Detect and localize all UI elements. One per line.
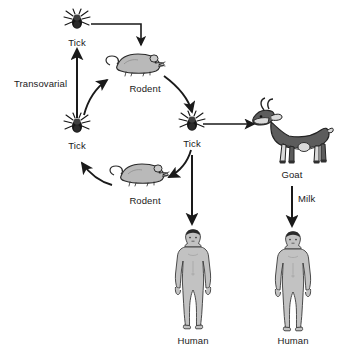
label-rodent-top: Rodent bbox=[129, 84, 160, 94]
tick-icon bbox=[62, 8, 92, 34]
rodent-icon bbox=[104, 50, 166, 80]
label-transovarial: Transovarial bbox=[14, 79, 67, 89]
label-human-left: Human bbox=[177, 336, 208, 346]
tick-icon bbox=[177, 110, 207, 136]
rodent-icon bbox=[108, 160, 170, 190]
label-tick-top: Tick bbox=[68, 38, 85, 48]
human-icon bbox=[272, 230, 314, 332]
tick-icon bbox=[62, 112, 92, 138]
diagram-canvas: Tick Tick Tick bbox=[0, 0, 341, 353]
label-milk: Milk bbox=[298, 194, 315, 204]
label-human-right: Human bbox=[277, 336, 308, 346]
edge-tick-right-to-rodent-bottom bbox=[169, 150, 191, 177]
human-icon bbox=[172, 228, 214, 330]
label-rodent-bottom: Rodent bbox=[129, 196, 160, 206]
edge-tick-top-to-rodent bbox=[91, 24, 141, 45]
edge-tick-left-to-rodent bbox=[84, 80, 107, 115]
label-tick-right: Tick bbox=[183, 139, 200, 149]
label-tick-left: Tick bbox=[68, 141, 85, 151]
edge-rodent-to-tick-right bbox=[164, 76, 192, 112]
label-goat: Goat bbox=[282, 170, 303, 180]
goat-icon bbox=[249, 96, 335, 168]
